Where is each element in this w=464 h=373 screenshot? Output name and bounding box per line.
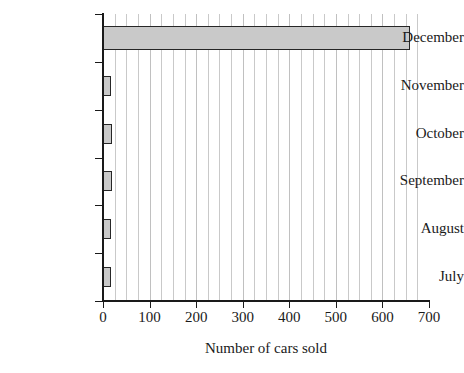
gridline-minor: [301, 14, 302, 301]
x-tick-0: [103, 302, 104, 308]
bar-september: [103, 171, 112, 191]
x-tick-200: [196, 302, 197, 308]
x-axis-title: Number of cars sold: [103, 340, 429, 357]
x-tick-600: [382, 302, 383, 308]
gridline-major: [289, 14, 290, 301]
x-axis-line: [102, 300, 430, 302]
bar-october: [103, 124, 112, 144]
gridline-major: [150, 14, 151, 301]
x-tick-500: [336, 302, 337, 308]
bar-chart: JulyAugustSeptemberOctoberNovemberDecemb…: [0, 0, 464, 373]
bar-august: [103, 219, 111, 239]
gridline-minor: [348, 14, 349, 301]
y-tick-boundary-1: [95, 62, 103, 63]
gridline-minor: [371, 14, 372, 301]
y-tick-boundary-6: [95, 301, 103, 302]
y-tick-boundary-3: [95, 158, 103, 159]
y-tick-boundary-4: [95, 205, 103, 206]
y-tick-boundary-2: [95, 110, 103, 111]
gridline-minor: [219, 14, 220, 301]
gridline-minor: [231, 14, 232, 301]
y-tick-boundary-0: [95, 14, 103, 15]
gridline-minor: [161, 14, 162, 301]
bar-july: [103, 267, 111, 287]
y-tick-boundary-5: [95, 253, 103, 254]
y-axis-label-august: August: [368, 221, 464, 236]
gridline-minor: [266, 14, 267, 301]
gridline-minor: [185, 14, 186, 301]
x-tick-100: [150, 302, 151, 308]
gridline-minor: [359, 14, 360, 301]
y-axis-label-december: December: [368, 30, 464, 45]
x-tick-label-700: 700: [399, 309, 459, 325]
bar-december: [103, 26, 410, 50]
y-axis-label-september: September: [368, 173, 464, 188]
x-tick-400: [289, 302, 290, 308]
gridline-minor: [115, 14, 116, 301]
gridline-minor: [417, 14, 418, 301]
x-tick-700: [429, 302, 430, 308]
gridline-minor: [208, 14, 209, 301]
bar-november: [103, 76, 111, 96]
gridline-minor: [278, 14, 279, 301]
plot-area: [103, 14, 429, 301]
gridline-major: [243, 14, 244, 301]
gridline-minor: [138, 14, 139, 301]
gridline-minor: [173, 14, 174, 301]
gridline-minor: [126, 14, 127, 301]
gridline-major: [336, 14, 337, 301]
gridline-minor: [254, 14, 255, 301]
gridline-minor: [406, 14, 407, 301]
x-tick-300: [243, 302, 244, 308]
y-axis-label-july: July: [368, 269, 464, 284]
y-axis-label-october: October: [368, 126, 464, 141]
gridline-minor: [324, 14, 325, 301]
gridline-major: [382, 14, 383, 301]
gridline-minor: [394, 14, 395, 301]
y-axis-label-november: November: [368, 78, 464, 93]
gridline-minor: [313, 14, 314, 301]
gridline-major: [196, 14, 197, 301]
